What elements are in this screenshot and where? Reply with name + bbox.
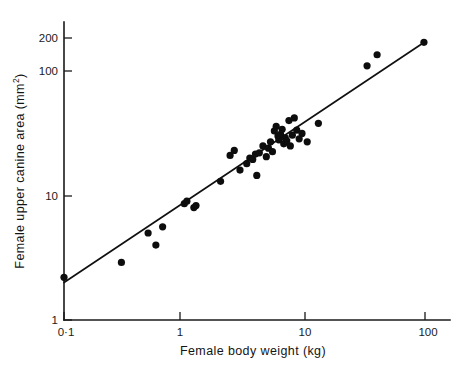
data-point (291, 114, 298, 121)
y-tick-label-100: 100 (39, 65, 58, 77)
data-points-layer (60, 39, 427, 281)
figure-container: 200 100 10 1 0·1 1 10 100 Female body we… (0, 0, 460, 369)
x-tick-label-0-1: 0·1 (58, 326, 75, 338)
x-axis-ticks (64, 312, 425, 320)
data-point (287, 142, 294, 149)
y-tick-label-10: 10 (45, 190, 58, 202)
y-axis-title: Female upper canine area (mm2) (11, 73, 27, 268)
data-point (253, 172, 260, 179)
data-point (304, 138, 311, 145)
svg-text:Female upper canine area (mm2): Female upper canine area (mm2) (11, 73, 27, 268)
x-axis-title: Female body weight (kg) (180, 344, 326, 358)
y-axis-title-main: Female upper canine area (mm (13, 83, 27, 269)
x-tick-label-100: 100 (418, 326, 437, 338)
data-point (159, 223, 166, 230)
x-tick-label-10: 10 (299, 326, 312, 338)
data-point (217, 178, 224, 185)
data-point (267, 138, 274, 145)
y-tick-label-1: 1 (52, 314, 58, 326)
data-point (152, 241, 159, 248)
data-point (269, 148, 276, 155)
data-point (118, 259, 125, 266)
scatter-plot: 200 100 10 1 0·1 1 10 100 Female body we… (0, 0, 460, 369)
y-tick-label-200: 200 (39, 32, 58, 44)
data-point (374, 51, 381, 58)
data-point (145, 229, 152, 236)
data-point (60, 274, 67, 281)
data-point (363, 62, 370, 69)
data-point (256, 149, 263, 156)
data-point (192, 202, 199, 209)
data-point (315, 120, 322, 127)
data-point (183, 198, 190, 205)
x-tick-label-1: 1 (177, 326, 183, 338)
data-point (231, 147, 238, 154)
data-point (263, 153, 270, 160)
data-point (279, 126, 286, 133)
data-point (298, 130, 305, 137)
data-point (236, 166, 243, 173)
data-point (420, 39, 427, 46)
y-axis-title-close: ) (13, 73, 27, 78)
